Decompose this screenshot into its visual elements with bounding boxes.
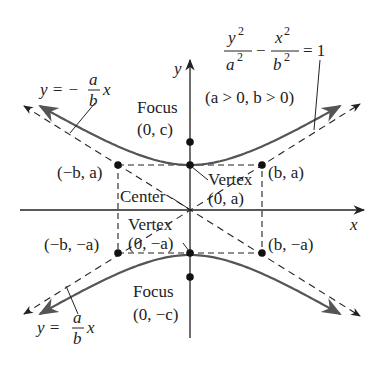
corner-point-top-left [114, 161, 122, 169]
svg-text:y =: y = [35, 318, 60, 337]
svg-text:b: b [89, 91, 98, 110]
svg-text:y: y [226, 28, 236, 47]
vertex-top-coords: (0, a) [208, 189, 244, 208]
focus-point-bottom [186, 273, 194, 281]
focus-bottom-coords: (0, −c) [133, 305, 178, 324]
focus-top-coords: (0, c) [137, 120, 173, 139]
svg-text:a: a [73, 308, 82, 327]
corner-label-top-left: (−b, a) [57, 163, 102, 182]
svg-text:x: x [274, 28, 283, 47]
svg-text:a: a [89, 70, 98, 89]
asymptote-neg-label: y = − a b x [38, 70, 111, 110]
svg-text:2: 2 [237, 50, 243, 64]
corner-label-bottom-right: (b, −a) [268, 235, 313, 254]
focus-bottom-label: Focus [133, 282, 174, 301]
hyperbola-diagram: y 2 a 2 − x 2 b 2 = 1 (a > 0, b > 0) y x… [0, 0, 380, 369]
y-axis-label: y [172, 59, 182, 78]
vertex-point-bottom [186, 249, 194, 257]
svg-text:x: x [86, 318, 95, 337]
svg-text:= 1: = 1 [303, 41, 325, 60]
leader-vertex-top [192, 167, 208, 180]
corner-label-top-right: (b, a) [268, 163, 304, 182]
svg-text:b: b [273, 55, 282, 74]
corner-label-bottom-left: (−b, −a) [44, 235, 99, 254]
asymptote-pos-label: y = a b x [35, 308, 95, 348]
corner-point-bottom-right [258, 249, 266, 257]
asymptote-negative-slope [24, 106, 360, 316]
svg-text:x: x [102, 80, 111, 99]
asymptote-positive-slope [24, 104, 360, 314]
svg-text:2: 2 [284, 50, 290, 64]
leader-center [172, 198, 189, 209]
vertex-bottom-label: Vertex [128, 215, 173, 234]
corner-point-bottom-left [114, 249, 122, 257]
corner-point-top-right [258, 161, 266, 169]
svg-text:y = −: y = − [38, 80, 79, 99]
leader-vertex-bottom [183, 243, 189, 251]
parameter-condition: (a > 0, b > 0) [205, 88, 294, 107]
vertex-bottom-coords: (0, −a) [128, 234, 173, 253]
svg-text:b: b [73, 329, 82, 348]
svg-text:a: a [226, 55, 235, 74]
svg-text:2: 2 [238, 24, 244, 38]
svg-text:2: 2 [284, 24, 290, 38]
focus-point-top [186, 138, 194, 146]
focus-top-label: Focus [137, 98, 178, 117]
vertex-top-label: Vertex [208, 170, 253, 189]
hyperbola-equation: y 2 a 2 − x 2 b 2 = 1 [224, 24, 325, 74]
svg-text:−: − [256, 41, 266, 60]
x-axis-label: x [349, 215, 358, 234]
center-label: Center [120, 187, 166, 206]
